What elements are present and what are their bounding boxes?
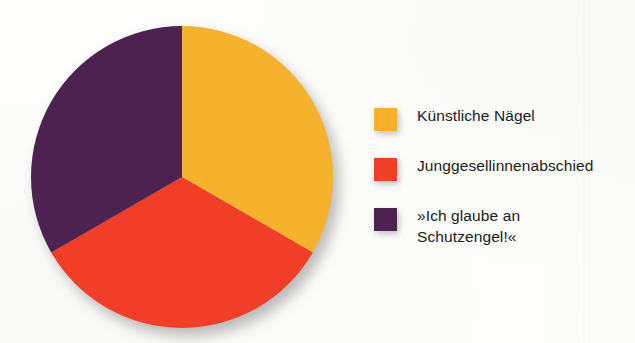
legend-label-schutzengel: »Ich glaube an Schutzengel!« — [417, 206, 520, 248]
legend-label-junggesellinnenabschied: Junggesellinnenabschied — [417, 156, 593, 177]
pie-chart-figure: Künstliche Nägel Junggesellinnenabschied… — [0, 0, 635, 343]
legend-item-schutzengel[interactable]: »Ich glaube an Schutzengel!« — [374, 206, 624, 248]
pie-slices — [31, 26, 333, 328]
legend-swatch-holder — [374, 208, 398, 232]
legend-item-junggesellinnenabschied[interactable]: Junggesellinnenabschied — [374, 156, 624, 182]
legend-item-kuenstliche-naegel[interactable]: Künstliche Nägel — [374, 106, 624, 132]
legend: Künstliche Nägel Junggesellinnenabschied… — [374, 106, 624, 248]
legend-swatch-holder — [374, 158, 398, 182]
legend-label-kuenstliche-naegel: Künstliche Nägel — [417, 106, 535, 127]
pie-chart — [31, 26, 333, 328]
legend-swatch-kuenstliche-naegel — [374, 108, 397, 131]
legend-swatch-junggesellinnenabschied — [374, 158, 397, 181]
legend-swatch-holder — [374, 108, 398, 132]
legend-swatch-schutzengel — [374, 208, 397, 231]
